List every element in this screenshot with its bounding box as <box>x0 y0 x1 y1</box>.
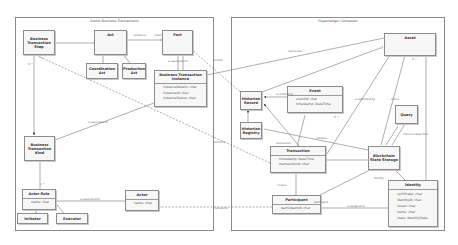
class-business-transaction-instance[interactable]: Business Transaction Instance instanceDe… <box>154 70 207 107</box>
class-act[interactable]: Act <box>94 30 127 55</box>
class-name: Act <box>95 31 126 37</box>
label-is-associated-to: is associated to <box>168 60 188 63</box>
attribute: state: IdentityState <box>397 215 435 221</box>
label-represents: represents <box>214 207 228 210</box>
label-transaction: transaction <box>276 142 291 145</box>
class-name: Identity <box>389 181 437 187</box>
label-m-0n: 0..* <box>334 116 339 119</box>
class-attributes: participantId: char <box>273 204 320 212</box>
class-name: Blockchain State Storage <box>369 154 399 162</box>
label-is-associated-to: is associated to <box>88 121 108 124</box>
class-coordination-act[interactable]: Coordination Act <box>86 63 118 79</box>
class-name: Asset <box>385 34 435 40</box>
class-business-transaction-step[interactable]: Business Transaction Step <box>23 30 55 55</box>
label-stores: stores <box>391 98 399 101</box>
class-production-act[interactable]: Production Act <box>122 63 146 79</box>
class-identity[interactable]: Identity certificate: char identityId: c… <box>388 180 438 227</box>
uml-class-diagram: Demo Business Transactions Hyperledger C… <box>0 0 458 245</box>
class-name: Production Act <box>123 67 145 75</box>
class-attributes: eventId: char timestamp: DateTime <box>288 95 342 108</box>
label-m-0n: 0..* <box>28 63 33 66</box>
label-creates: creates <box>277 184 287 187</box>
attribute: name: char <box>134 201 156 206</box>
class-initiator[interactable]: Initiator <box>17 213 48 224</box>
label-emitted: is emitted by <box>276 93 293 96</box>
class-name: Fact <box>163 31 192 37</box>
class-actor-role[interactable]: Actor Role name: char <box>22 189 56 210</box>
label-produces: produces <box>134 34 146 37</box>
label-m-1: 1 <box>41 57 43 60</box>
class-attributes: name: char <box>23 198 55 206</box>
class-name: Business Transaction Step <box>24 36 54 49</box>
class-name: Event <box>288 87 342 93</box>
label-identity: identity <box>374 177 384 180</box>
class-name: Executor <box>57 216 87 220</box>
class-asset[interactable]: Asset <box>384 33 436 56</box>
class-name: Initiator <box>18 216 47 220</box>
class-attributes: name: char <box>126 199 158 207</box>
class-query[interactable]: Query <box>395 105 418 124</box>
attribute: participantId: char <box>281 206 318 211</box>
class-name: Historian Record <box>241 96 261 104</box>
class-historian-registry[interactable]: Historian Registry <box>240 122 262 139</box>
class-transaction[interactable]: Transaction timestamp: DateTime transact… <box>270 146 326 173</box>
class-name: Business Transaction Kind <box>25 142 54 155</box>
label-records: records <box>213 59 223 62</box>
label-participant: participant <box>314 201 328 204</box>
class-actor[interactable]: Actor name: char <box>125 190 159 211</box>
attribute: timestamp: DateTime <box>296 102 340 107</box>
class-blockchain-state-storage[interactable]: Blockchain State Storage <box>368 146 400 170</box>
class-participant[interactable]: Participant participantId: char <box>272 195 321 214</box>
label-m-0n: 0..* <box>412 58 417 61</box>
attribute: name: char <box>31 200 53 205</box>
class-name: Transaction <box>271 147 325 153</box>
label-represents: represents <box>288 50 302 53</box>
class-name: Participant <box>273 196 320 202</box>
attribute: instanceStatus: char <box>163 96 204 102</box>
label-is-assigned-to: is assigned to <box>347 205 365 208</box>
class-name: Business Transaction Instance <box>155 71 206 81</box>
label-m-1n: 1..* <box>40 183 45 186</box>
label-contains: contains <box>316 137 327 140</box>
class-fact[interactable]: Fact <box>162 30 193 55</box>
label-submitted: is submitted by <box>355 98 375 101</box>
class-name: Coordination Act <box>87 67 117 75</box>
class-attributes: instanceDetails: char instanceId: char i… <box>155 83 206 103</box>
class-event[interactable]: Event eventId: char timestamp: DateTime <box>287 86 343 113</box>
label-performs: performs <box>214 141 226 144</box>
class-executor[interactable]: Executor <box>56 213 88 224</box>
class-name: Historian Registry <box>241 126 261 134</box>
class-name: Actor <box>126 191 158 197</box>
class-attributes: certificate: char identityId: char issue… <box>389 189 437 222</box>
label-retrieves: retrieves data from <box>403 133 428 136</box>
class-business-transaction-kind[interactable]: Business Transaction Kind <box>24 136 55 161</box>
label-ofact: ofact <box>155 34 162 37</box>
class-historian-record[interactable]: Historian Record <box>240 91 262 110</box>
label-is-associated-to: is associated to <box>80 198 100 201</box>
class-name: Actor Role <box>23 190 55 196</box>
attribute: transactionId: char <box>279 162 323 167</box>
class-attributes: timestamp: DateTime transactionId: char <box>271 155 325 168</box>
class-name: Query <box>396 112 417 116</box>
